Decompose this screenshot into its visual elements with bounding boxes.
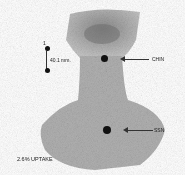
uptake-label: 2.6% UPTAKE <box>17 156 53 162</box>
scale-bar <box>46 50 47 69</box>
ssn-arrow-line <box>127 130 153 131</box>
chin-label: CHIN <box>152 56 164 62</box>
scale-bottom-dot <box>45 68 50 73</box>
scale-top-label: 1 <box>43 40 46 46</box>
chin-arrow-line <box>124 59 149 60</box>
chin-marker-dot <box>101 55 108 62</box>
body-uptake-silhouette <box>0 0 185 175</box>
scintigraphy-image: CHIN SSN 1 40.1 mm. 2.6% UPTAKE <box>0 0 185 175</box>
ssn-label: SSN <box>154 127 164 133</box>
scale-distance-label: 40.1 mm. <box>50 57 71 63</box>
ssn-marker-dot <box>103 126 111 134</box>
